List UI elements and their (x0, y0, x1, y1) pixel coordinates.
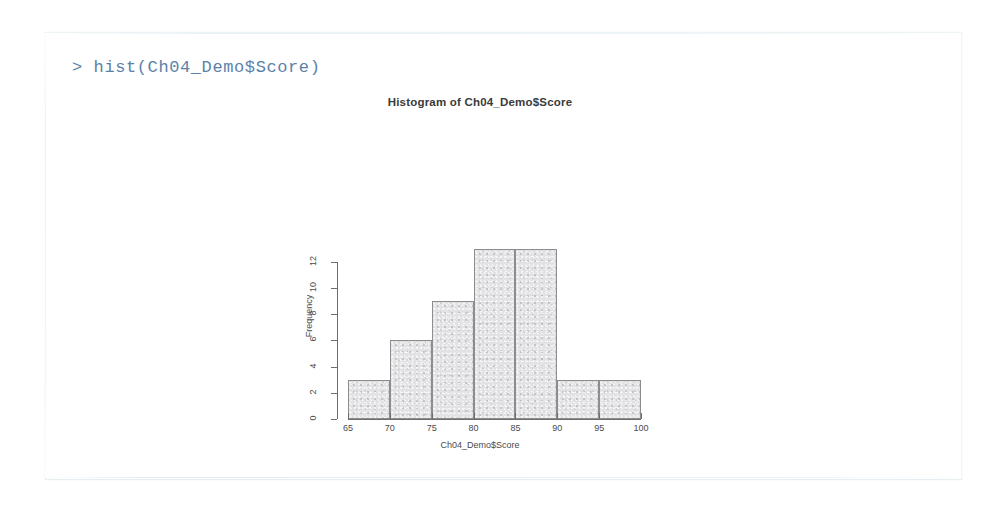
y-axis-tick-label: 0 (308, 403, 318, 433)
histogram-bar (432, 301, 474, 419)
x-axis-label: Ch04_Demo$Score (290, 440, 670, 450)
histogram-bar (390, 340, 432, 419)
x-axis-tick-label: 70 (375, 423, 405, 433)
scan-edge-left (45, 33, 46, 477)
y-axis-line (337, 262, 338, 419)
y-axis-tick (331, 262, 337, 263)
x-axis-tick (599, 413, 600, 419)
x-axis-tick (557, 413, 558, 419)
x-axis-tick-label: 65 (333, 423, 363, 433)
histogram-bar (515, 249, 557, 419)
x-axis-tick-label: 80 (459, 423, 489, 433)
y-axis-tick (331, 393, 337, 394)
scan-edge-bottom (46, 477, 958, 478)
scan-edge-top (46, 33, 958, 34)
histogram-bar (599, 380, 641, 419)
y-axis-tick-label: 2 (308, 377, 318, 407)
x-axis-line (348, 419, 641, 420)
x-axis-tick-label: 100 (626, 423, 656, 433)
x-axis-tick-label: 75 (417, 423, 447, 433)
y-axis-tick (331, 419, 337, 420)
screenshot-root: > hist(Ch04_Demo$Score) Histogram of Ch0… (0, 0, 1002, 509)
r-console-command: > hist(Ch04_Demo$Score) (72, 58, 320, 77)
y-axis-tick (331, 367, 337, 368)
y-axis-tick (331, 340, 337, 341)
x-axis-tick (432, 413, 433, 419)
x-axis-tick (474, 413, 475, 419)
x-axis-tick-label: 85 (500, 423, 530, 433)
plot-axes: 024681012 65707580859095100 Frequency Ch… (290, 96, 670, 466)
histogram-bar (557, 380, 599, 419)
x-axis-tick (390, 413, 391, 419)
x-axis-tick (515, 413, 516, 419)
histogram-plot: Histogram of Ch04_Demo$Score 024681012 6… (290, 96, 670, 466)
x-axis-tick (641, 413, 642, 419)
x-axis-tick-label: 90 (542, 423, 572, 433)
y-axis-tick (331, 314, 337, 315)
x-axis-tick-label: 95 (584, 423, 614, 433)
y-axis-label: Frequency (304, 271, 314, 361)
histogram-bar (348, 380, 390, 419)
x-axis-tick (348, 413, 349, 419)
histogram-bar (474, 249, 516, 419)
y-axis-tick (331, 288, 337, 289)
